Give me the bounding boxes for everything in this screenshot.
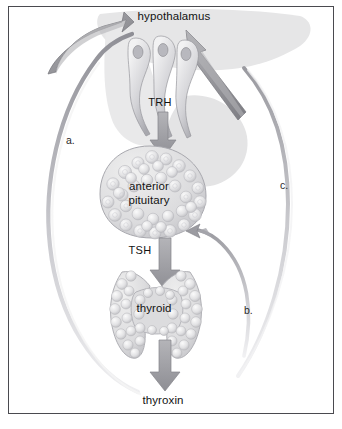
label-hypothalamus: hypothalamus: [138, 10, 211, 22]
diagram-page: hypothalamus TRH anterior pituitary TSH …: [0, 0, 342, 429]
label-trh: TRH: [148, 97, 172, 109]
label-anterior-pituitary-line1: anterior: [128, 180, 169, 194]
diagram-canvas: [0, 0, 342, 429]
label-anterior-pituitary: anterior pituitary: [128, 180, 169, 207]
label-anterior-pituitary-line2: pituitary: [128, 194, 169, 208]
label-feedback-c: c.: [280, 180, 288, 191]
thyroid-gland: [110, 271, 203, 358]
label-tsh: TSH: [129, 245, 152, 257]
label-feedback-a: a.: [66, 135, 75, 146]
label-thyroxin: thyroxin: [142, 394, 183, 406]
label-feedback-b: b.: [244, 305, 253, 316]
feedback-arrow-c: [238, 68, 292, 376]
label-thyroid: thyroid: [136, 302, 171, 314]
